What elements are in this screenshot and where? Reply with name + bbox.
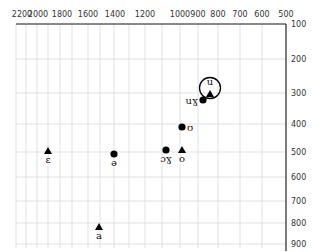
- y-tick-label: 200: [291, 55, 306, 64]
- triangle-marker-icon: [44, 147, 52, 154]
- circle-marker-icon: [178, 123, 185, 130]
- vowel-label: ɛ: [45, 154, 50, 165]
- y-axis-ticks: 100200300400500600700800900: [291, 20, 306, 249]
- y-tick-label: 500: [291, 148, 306, 157]
- vowel-label: u: [207, 76, 214, 87]
- x-tick-label: 1000: [170, 10, 190, 19]
- y-tick-label: 300: [291, 89, 306, 98]
- vowel-point: ɛ: [44, 147, 52, 165]
- x-tick-label: 1600: [78, 10, 98, 19]
- data-points: uuɣʊɔɣoəɛa: [44, 76, 221, 241]
- vowel-label: uɣ: [186, 95, 198, 106]
- x-tick-label: 2000: [28, 10, 48, 19]
- triangle-marker-icon: [206, 90, 214, 97]
- vowel-point: uɣ: [186, 95, 207, 106]
- vowel-point: u: [200, 76, 221, 99]
- gridlines: [16, 24, 286, 248]
- x-tick-label: 500: [278, 10, 293, 19]
- y-tick-label: 400: [291, 120, 306, 129]
- vowel-point: a: [95, 223, 103, 241]
- vowel-point: ə: [110, 150, 117, 168]
- vowel-point: o: [178, 146, 186, 164]
- triangle-marker-icon: [95, 223, 103, 230]
- x-tick-label: 600: [254, 10, 269, 19]
- y-tick-label: 100: [291, 20, 306, 29]
- x-tick-label: 1200: [135, 10, 155, 19]
- y-tick-label: 700: [291, 197, 306, 206]
- vowel-label: ɔɣ: [160, 153, 172, 164]
- x-tick-label: 1800: [52, 10, 72, 19]
- x-tick-label: 800: [210, 10, 225, 19]
- vowel-label: ʊ: [187, 122, 193, 133]
- y-tick-label: 800: [291, 219, 306, 228]
- x-tick-label: 1400: [105, 10, 125, 19]
- x-tick-label: 900: [190, 10, 205, 19]
- x-axis-ticks: 2200200018001600140012001000900800700600…: [12, 10, 294, 19]
- x-tick-label: 700: [232, 10, 247, 19]
- y-tick-label: 600: [291, 173, 306, 182]
- axes: [16, 24, 286, 251]
- y-tick-label: 900: [291, 240, 306, 249]
- vowel-label: ə: [111, 157, 117, 168]
- vowel-label: o: [179, 153, 185, 164]
- vowel-chart: 2200200018001600140012001000900800700600…: [0, 0, 314, 252]
- circle-marker-icon: [199, 96, 206, 103]
- triangle-marker-icon: [178, 146, 186, 153]
- vowel-label: a: [96, 230, 102, 241]
